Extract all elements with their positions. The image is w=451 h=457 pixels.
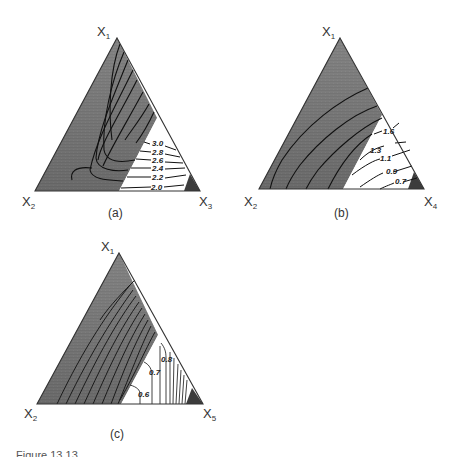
figure-canvas: 3.0 2.8 2.6 2.4 2.2 2.0 X1 X2 X3 (a) [0, 0, 451, 457]
contour-label: 0.6 [138, 390, 150, 399]
contour-label: 1.6 [383, 127, 395, 136]
vertex-label-x4: X4 [424, 194, 438, 211]
vertex-label-x2: X2 [22, 194, 36, 211]
vertex-label-x3: X3 [199, 194, 213, 211]
vertex-label-x5: X5 [203, 406, 217, 423]
panel-label-b: (b) [334, 206, 349, 220]
vertex-label-x1: X1 [322, 24, 336, 41]
contour-label: 2.4 [151, 164, 164, 173]
panel-label-c: (c) [110, 427, 124, 441]
contour-label: 3.0 [152, 139, 164, 148]
panel-a: 3.0 2.8 2.6 2.4 2.2 2.0 X1 X2 X3 (a) [22, 24, 213, 220]
contour-label: 0.7 [149, 368, 161, 377]
panel-c: 0.8 0.7 0.6 X1 X2 X5 (c) [24, 239, 217, 441]
vertex-label-x2: X2 [24, 406, 38, 423]
contour-label: 2.2 [151, 173, 164, 182]
vertex-label-x2: X2 [244, 194, 258, 211]
vertex-label-x1: X1 [97, 24, 111, 41]
figure-caption: Figure 13.13 ... [16, 449, 436, 457]
contour-label: 0.7 [395, 177, 407, 186]
contour-label: 1.1 [380, 154, 392, 163]
contour-label: 0.9 [386, 167, 398, 176]
panel-label-a: (a) [108, 206, 123, 220]
panel-b: 1.6 1.3 1.1 0.9 0.7 X1 X2 X4 (b) [244, 24, 438, 220]
vertex-label-x1: X1 [101, 239, 115, 256]
contour-label: 0.8 [161, 355, 173, 364]
